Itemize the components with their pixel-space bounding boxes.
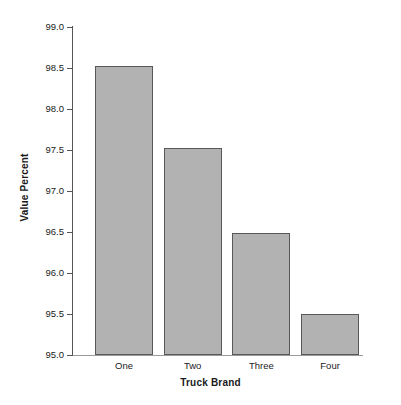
y-axis-tick-label: 95.5 bbox=[31, 309, 64, 319]
x-axis-title: Truck Brand bbox=[73, 377, 348, 388]
y-axis-tick-label: 96.0 bbox=[31, 268, 64, 278]
y-axis-tick-label-text: 97.0 bbox=[34, 186, 64, 196]
bar-chart-figure: Value Percent 99.098.598.097.597.096.596… bbox=[0, 0, 401, 405]
y-axis-tick-label-text: 96.0 bbox=[34, 268, 64, 278]
y-axis-tick-label: 97.5 bbox=[31, 145, 64, 155]
y-axis-tick-label: 99.0 bbox=[31, 22, 64, 32]
y-axis-tick-label-text: 99.0 bbox=[34, 22, 64, 32]
y-axis-tick-label: 96.5 bbox=[31, 227, 64, 237]
y-axis-tick-label-text: 95.5 bbox=[34, 309, 64, 319]
bar bbox=[232, 233, 290, 355]
y-axis-tick-label: 97.0 bbox=[31, 186, 64, 196]
y-axis-tick bbox=[67, 355, 73, 356]
y-axis-tick-label-text: 95.0 bbox=[34, 350, 64, 360]
y-axis-tick-label-text: 96.5 bbox=[34, 227, 64, 237]
bar bbox=[164, 148, 222, 355]
x-axis-tick-label: Four bbox=[291, 360, 369, 371]
plot-area bbox=[73, 27, 348, 355]
y-axis-tick-label: 95.0 bbox=[31, 350, 64, 360]
bar bbox=[301, 314, 359, 355]
y-axis-tick-label-text: 98.0 bbox=[34, 104, 64, 114]
y-axis-title: Value Percent bbox=[16, 15, 32, 360]
y-axis-tick-label: 98.0 bbox=[31, 104, 64, 114]
x-axis-tick-label: Three bbox=[222, 360, 300, 371]
x-axis-tick-label: Two bbox=[154, 360, 232, 371]
x-axis-line bbox=[73, 355, 363, 356]
y-axis-tick-label-text: 98.5 bbox=[34, 63, 64, 73]
y-axis-tick-label: 98.5 bbox=[31, 63, 64, 73]
x-axis-tick-label: One bbox=[85, 360, 163, 371]
bar bbox=[95, 66, 153, 355]
y-axis-tick-label-text: 97.5 bbox=[34, 145, 64, 155]
